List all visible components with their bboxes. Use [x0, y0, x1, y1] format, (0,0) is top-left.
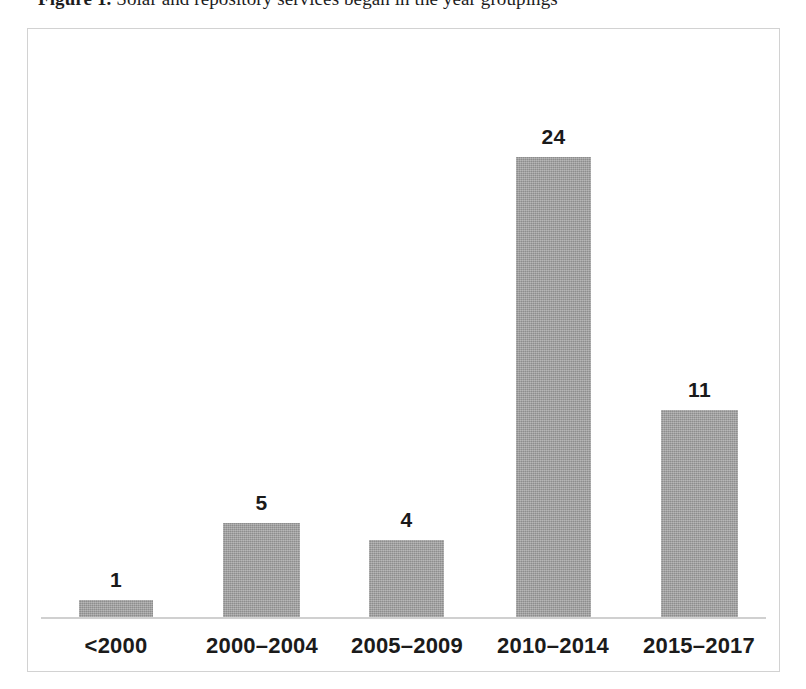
x-axis-tick-label: 2005–2009 [336, 633, 478, 659]
figure-caption-text: Figure 1. Solar and repository services … [38, 0, 558, 10]
x-axis-tick-label: 2015–2017 [628, 633, 770, 659]
bar-value-label: 1 [79, 568, 153, 592]
x-axis-tick-label: 2010–2014 [482, 633, 624, 659]
x-axis-labels: <20002000–20042005–20092010–20142015–201… [28, 629, 781, 673]
x-axis-line [41, 617, 766, 619]
plot-area: 1542411 <20002000–20042005–20092010–2014… [28, 29, 779, 671]
bar [369, 540, 444, 617]
bar [223, 523, 300, 617]
x-axis-tick-label: <2000 [61, 633, 171, 659]
bar-group: 1 [79, 600, 153, 617]
figure-caption-rest: Solar and repository services began in t… [111, 0, 557, 9]
bar [661, 410, 738, 617]
bar-group: 5 [223, 523, 300, 617]
bar [79, 600, 153, 617]
figure-caption-prefix: Figure 1. [38, 0, 111, 9]
bar-value-label: 24 [516, 125, 591, 149]
bar-value-label: 4 [369, 508, 444, 532]
bar-group: 24 [516, 157, 591, 617]
bar-value-label: 11 [661, 378, 738, 402]
bar-group: 4 [369, 540, 444, 617]
bar [516, 157, 591, 617]
figure-caption-clipped: Figure 1. Solar and repository services … [0, 0, 806, 14]
bar-series: 1542411 [28, 29, 781, 673]
bar-value-label: 5 [223, 491, 300, 515]
bar-group: 11 [661, 410, 738, 617]
x-axis-tick-label: 2000–2004 [191, 633, 333, 659]
figure-frame: 1542411 <20002000–20042005–20092010–2014… [27, 28, 780, 672]
